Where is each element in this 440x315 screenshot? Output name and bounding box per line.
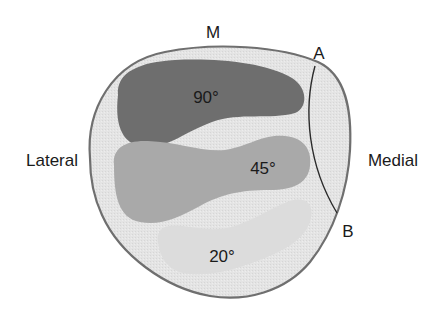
zone-45-label: 45°: [250, 159, 276, 178]
lateral-label: Lateral: [26, 151, 78, 170]
cross-section-diagram: 90° 45° 20° M A Lateral Medial B: [0, 0, 440, 315]
zone-90-label: 90°: [193, 88, 219, 107]
top-label-m: M: [206, 23, 220, 42]
point-b-label: B: [342, 222, 353, 241]
medial-label: Medial: [368, 151, 418, 170]
zone-20-label: 20°: [209, 247, 235, 266]
point-a-label: A: [313, 44, 325, 63]
